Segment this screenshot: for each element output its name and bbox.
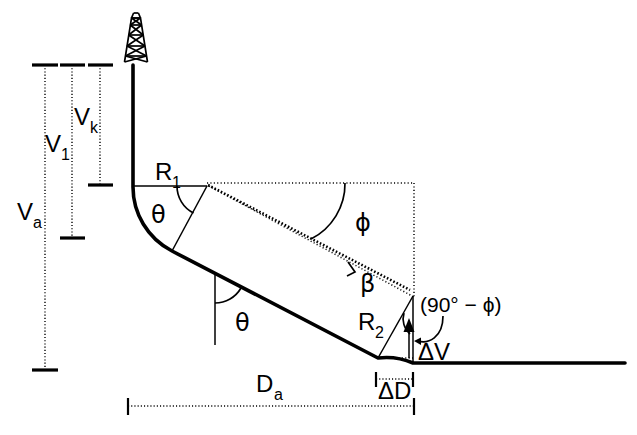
label-vk-base: V — [74, 103, 90, 130]
label-v1-base: V — [45, 130, 61, 157]
label-v1-sub: 1 — [61, 146, 70, 163]
label-r1-base: R — [155, 158, 172, 185]
label-ninety-minus-phi: (90° − ϕ) — [420, 293, 501, 316]
label-va-sub: a — [33, 214, 42, 231]
label-phi: ϕ — [355, 209, 371, 237]
label-beta: β — [360, 270, 375, 298]
well-profile-diagram: V a V 1 V k R 1 R 2 θ θ ϕ β — [0, 0, 637, 435]
label-theta-upper: θ — [151, 201, 166, 229]
label-r2-base: R — [358, 308, 375, 335]
label-theta-lower: θ — [235, 309, 250, 337]
label-r2-sub: 2 — [375, 324, 384, 341]
label-deltad: ΔD — [378, 377, 411, 404]
label-deltav: ΔV — [418, 338, 450, 365]
label-r1-sub: 1 — [172, 174, 181, 191]
label-da-base: D — [256, 370, 273, 397]
diagram-canvas: V a V 1 V k R 1 R 2 θ θ ϕ β — [0, 0, 637, 435]
label-va-base: V — [17, 198, 33, 225]
label-vk-sub: k — [90, 119, 99, 136]
label-da-sub: a — [274, 386, 283, 403]
